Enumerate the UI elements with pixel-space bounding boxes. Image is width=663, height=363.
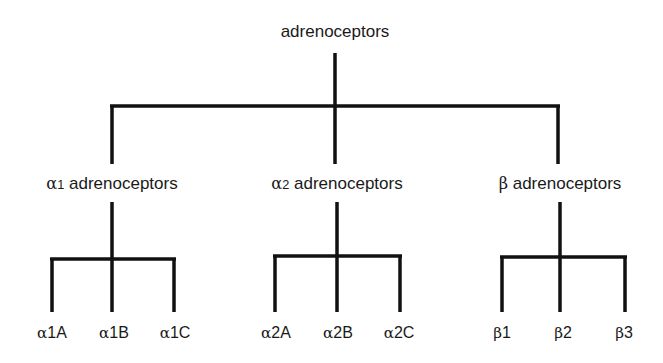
leaf-text: 3: [624, 324, 633, 341]
leaf-beta1: β1: [493, 324, 511, 342]
root-node-label: adrenoceptors: [281, 22, 390, 42]
alpha-symbol: α: [271, 174, 282, 193]
leaf-text: 2: [563, 324, 572, 341]
leaf-alpha2b: α2B: [323, 324, 353, 342]
alpha-symbol: α: [160, 324, 170, 342]
alpha-symbol: α: [323, 324, 333, 342]
alpha2-node-label: α2 adrenoceptors: [271, 174, 402, 194]
beta-symbol: β: [499, 174, 508, 193]
leaf-text: 2C: [394, 324, 414, 341]
leaf-text: 2A: [271, 324, 291, 341]
alpha-symbol: α: [99, 324, 109, 342]
leaf-alpha1b: α1B: [99, 324, 129, 342]
leaf-alpha2a: α2A: [261, 324, 291, 342]
beta-symbol: β: [615, 324, 624, 342]
beta-symbol: β: [554, 324, 563, 342]
leaf-beta3: β3: [615, 324, 633, 342]
node-text: adrenoceptors: [508, 174, 621, 193]
subscript: 2: [282, 177, 289, 192]
leaf-alpha2c: α2C: [384, 324, 415, 342]
node-text: adrenoceptors: [64, 174, 177, 193]
leaf-alpha1c: α1C: [160, 324, 191, 342]
leaf-beta2: β2: [554, 324, 572, 342]
alpha-symbol: α: [46, 174, 57, 193]
leaf-alpha1a: α1A: [37, 324, 67, 342]
alpha1-node-label: α1 adrenoceptors: [46, 174, 177, 194]
leaf-text: 1: [502, 324, 511, 341]
leaf-text: 1C: [170, 324, 190, 341]
alpha-symbol: α: [384, 324, 394, 342]
leaf-text: 1A: [47, 324, 67, 341]
leaf-text: 2B: [333, 324, 353, 341]
subscript: 1: [57, 177, 64, 192]
leaf-text: 1B: [109, 324, 129, 341]
beta-node-label: β adrenoceptors: [499, 174, 622, 194]
alpha-symbol: α: [37, 324, 47, 342]
alpha-symbol: α: [261, 324, 271, 342]
beta-symbol: β: [493, 324, 502, 342]
node-text: adrenoceptors: [289, 174, 402, 193]
